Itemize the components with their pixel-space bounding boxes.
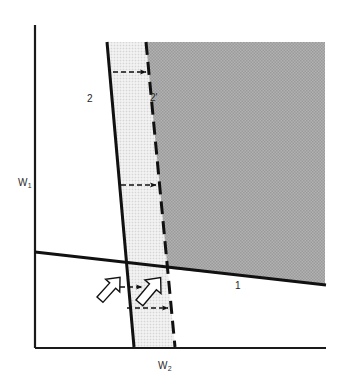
y-axis-label-subscript: 1 [28,182,32,189]
gradient-arrow-left [93,271,127,306]
x-axis-label-subscript: 2 [168,365,172,372]
line-1-label: 1 [235,280,241,291]
line-2-label: 2 [87,93,93,104]
constraint-diagram-figure: W1 W2 2 2' 1 [0,0,340,386]
feasible-region [146,42,325,284]
figure-canvas [0,0,340,386]
x-axis-label: W2 [158,360,172,372]
y-axis-label-text: W [18,177,28,188]
y-axis-label: W1 [18,177,32,189]
x-axis-label-text: W [158,360,168,371]
line-2-prime-label: 2' [150,92,157,103]
